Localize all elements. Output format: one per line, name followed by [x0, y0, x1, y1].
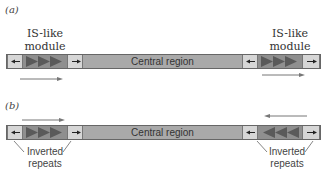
- left-repeats-line2: repeats: [22, 158, 68, 170]
- right-inverted-repeats-label: Inverted repeats: [264, 146, 310, 170]
- left-repeats-line1: Inverted: [22, 146, 68, 158]
- left-inverted-repeats-label: Inverted repeats: [22, 146, 68, 170]
- right-repeats-line2: repeats: [264, 158, 310, 170]
- right-repeats-line1: Inverted: [264, 146, 310, 158]
